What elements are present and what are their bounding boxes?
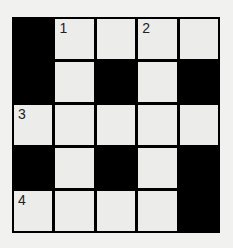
crossword-cell[interactable]	[55, 148, 93, 188]
crossword-cell[interactable]	[55, 62, 93, 102]
black-cell	[14, 148, 52, 188]
crossword-cell[interactable]	[97, 191, 135, 231]
crossword-cell[interactable]	[138, 62, 176, 102]
crossword-cell[interactable]	[138, 191, 176, 231]
clue-number: 4	[18, 193, 26, 207]
crossword-cell[interactable]	[180, 105, 218, 145]
black-cell	[14, 19, 52, 59]
black-cell	[97, 148, 135, 188]
crossword-cell[interactable]	[97, 105, 135, 145]
crossword-cell[interactable]: 1	[55, 19, 93, 59]
crossword-cell[interactable]	[180, 19, 218, 59]
crossword-grid: 1234	[12, 17, 220, 233]
black-cell	[97, 62, 135, 102]
crossword-cell[interactable]: 4	[14, 191, 52, 231]
crossword-cell[interactable]	[55, 191, 93, 231]
crossword-cell[interactable]	[138, 105, 176, 145]
black-cell	[14, 62, 52, 102]
black-cell	[180, 62, 218, 102]
black-cell	[180, 148, 218, 188]
crossword-cell[interactable]: 3	[14, 105, 52, 145]
clue-number: 2	[142, 21, 150, 35]
clue-number: 1	[59, 21, 67, 35]
crossword-cell[interactable]: 2	[138, 19, 176, 59]
clue-number: 3	[18, 107, 26, 121]
black-cell	[180, 191, 218, 231]
crossword-cell[interactable]	[138, 148, 176, 188]
crossword-cell[interactable]	[97, 19, 135, 59]
crossword-cell[interactable]	[55, 105, 93, 145]
